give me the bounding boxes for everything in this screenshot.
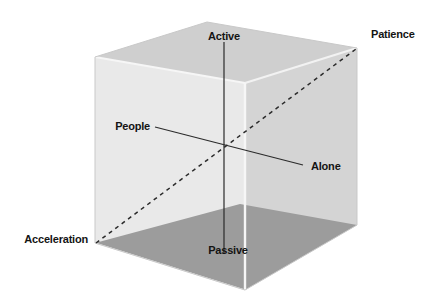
cube-diagram-svg: Active Passive People Alone Patience Acc…	[0, 0, 434, 307]
label-patience: Patience	[371, 28, 415, 40]
label-active: Active	[208, 30, 240, 42]
label-passive: Passive	[208, 244, 248, 256]
diagram-canvas: Active Passive People Alone Patience Acc…	[0, 0, 434, 307]
label-acceleration: Acceleration	[24, 233, 88, 245]
label-people: People	[115, 120, 150, 132]
label-alone: Alone	[311, 160, 341, 172]
